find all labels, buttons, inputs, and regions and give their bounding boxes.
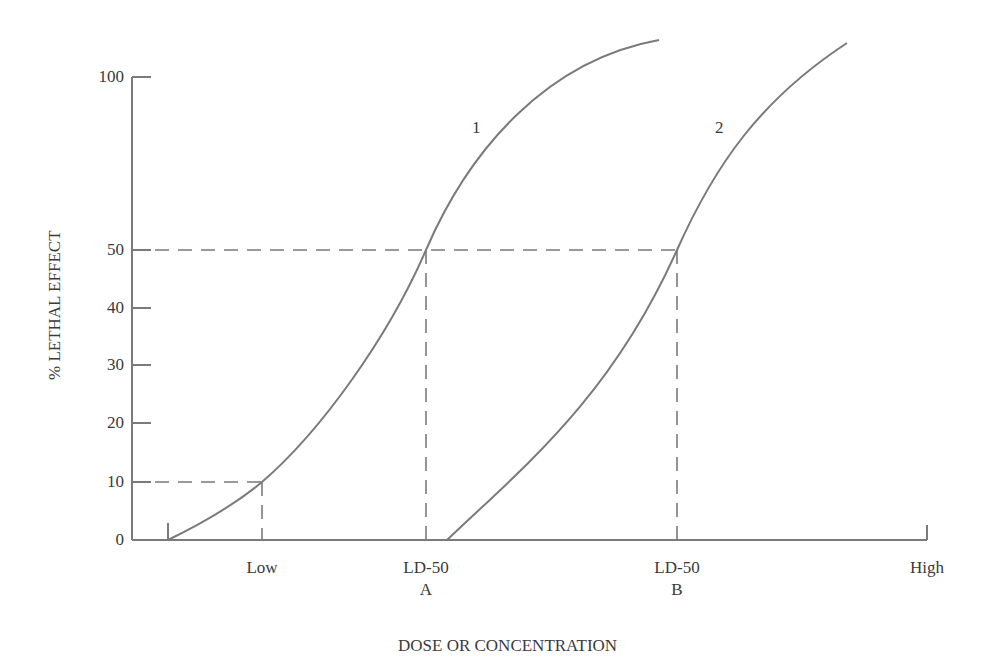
- x-label-ld50-b-sub: B: [627, 579, 727, 601]
- x-label-ld50-a: LD-50: [376, 557, 476, 579]
- y-tick-label-100: 100: [84, 67, 124, 87]
- y-tick-label-50: 50: [84, 240, 124, 260]
- y-axis-title: % LETHAL EFFECT: [45, 240, 65, 380]
- curve-1: [168, 40, 659, 540]
- y-tick-label-0: 0: [84, 530, 124, 550]
- x-label-ld50-b: LD-50: [627, 557, 727, 579]
- y-tick-label-30: 30: [84, 355, 124, 375]
- curves: [168, 40, 847, 540]
- curve-1-label: 1: [472, 118, 481, 138]
- curve-2-label: 2: [715, 118, 724, 138]
- x-label-low: Low: [212, 557, 312, 579]
- x-label-ld50-a-sub: A: [376, 579, 476, 601]
- x-axis-title: DOSE OR CONCENTRATION: [398, 636, 617, 656]
- axes: [132, 77, 927, 540]
- x-label-high: High: [877, 557, 977, 579]
- curve-2: [447, 43, 847, 540]
- y-tick-label-20: 20: [84, 413, 124, 433]
- y-tick-label-40: 40: [84, 298, 124, 318]
- dose-response-chart: [0, 0, 988, 660]
- y-tick-label-10: 10: [84, 472, 124, 492]
